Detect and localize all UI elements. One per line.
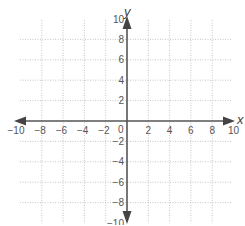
tick-labels: −10−8−6−4−2246810108642−2−4−6−8−10 [8,14,240,226]
coordinate-plane: −10−8−6−4−2246810108642−2−4−6−8−10 x y 0 [0,0,245,225]
y-tick-label: −4 [113,156,125,167]
y-axis-label: y [123,4,132,19]
y-tick-label: 4 [118,75,124,86]
y-tick-label: −8 [113,197,125,208]
x-axis-label: x [236,112,244,127]
y-tick-label: −6 [113,177,125,188]
x-tick-label: 2 [146,125,152,136]
y-tick-label: 8 [118,34,124,45]
x-tick-label: −4 [77,125,89,136]
y-tick-label: 6 [118,54,124,65]
y-tick-label: −10 [107,218,124,226]
axes [14,16,235,224]
x-tick-label: −8 [34,125,46,136]
x-tick-label: −10 [8,125,25,136]
origin-label: 0 [118,124,124,135]
y-tick-label: 2 [118,95,124,106]
x-tick-label: 4 [167,125,173,136]
x-tick-label: 6 [188,125,194,136]
x-tick-label: −6 [56,125,68,136]
y-tick-label: 10 [113,14,125,25]
x-tick-label: −2 [98,125,110,136]
x-tick-label: 8 [209,125,215,136]
y-tick-label: −2 [113,136,125,147]
